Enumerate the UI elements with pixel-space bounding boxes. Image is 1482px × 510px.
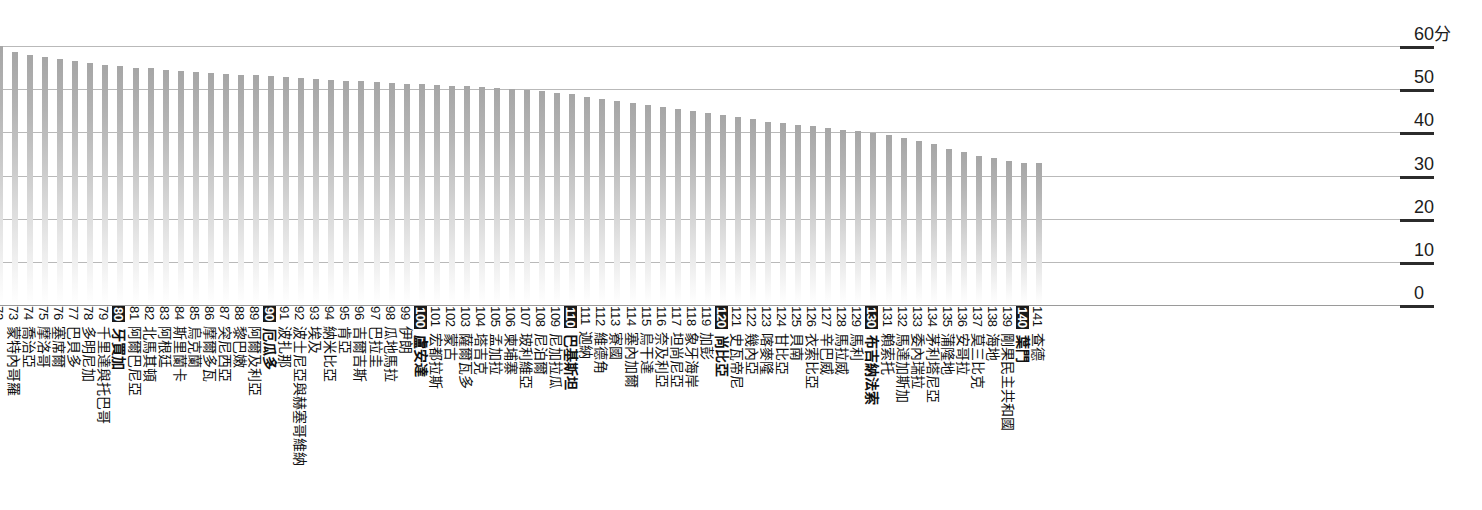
category-rank: 139 [1002, 306, 1015, 327]
category-rank: 134 [926, 306, 939, 327]
category-name: 烏克蘭 [188, 326, 202, 368]
category-name: 幾內亞 [745, 333, 759, 375]
category-rank: 102 [444, 306, 457, 327]
category-rank: 87 [218, 306, 231, 320]
bar-chart: 60分50403020100 7273蒙特內哥羅74喬治亞75摩洛哥76塞席爾7… [0, 0, 1482, 510]
category-name: 突尼西亞 [218, 326, 232, 382]
category-label: 77巴貝多 [67, 306, 81, 506]
category-name: 阿爾及利亞 [248, 326, 262, 396]
category-name: 薩爾瓦多 [459, 333, 473, 389]
bar [389, 83, 395, 305]
category-rank: 81 [128, 306, 141, 320]
category-name: 黎巴嫩 [233, 326, 247, 368]
axis-tick-40 [1400, 132, 1434, 135]
category-rank: 120 [715, 306, 728, 329]
category-name: 牙買加 [112, 328, 126, 370]
category-name: 海地 [986, 333, 1000, 361]
category-name: 宏都拉斯 [429, 333, 443, 389]
category-name: 波士尼亞與赫塞哥維納 [293, 326, 307, 466]
bar [72, 61, 78, 305]
bar [1036, 163, 1042, 305]
category-name: 蒙特內哥羅 [7, 326, 21, 396]
bar [253, 75, 259, 305]
category-label: 107玻利維亞 [519, 306, 533, 506]
category-name: 象牙海岸 [685, 332, 699, 388]
category-label: 114塞內加爾 [625, 306, 639, 506]
category-rank: 75 [38, 306, 51, 320]
category-label: 117坦尚尼亞 [670, 306, 684, 506]
bar [946, 149, 952, 305]
category-label: 136安哥拉 [956, 306, 970, 506]
category-label: 109尼加拉瓜 [549, 306, 563, 506]
category-name: 塔吉克 [474, 333, 488, 375]
bar-series [0, 0, 1400, 306]
category-name: 摩爾多瓦 [203, 326, 217, 382]
category-label: 102蒙古 [444, 306, 458, 506]
category-label: 80牙買加 [112, 306, 126, 506]
category-rank: 85 [188, 306, 201, 320]
bar [825, 128, 831, 305]
category-rank: 111 [580, 306, 593, 325]
bar [630, 103, 636, 305]
category-name: 摩洛哥 [37, 326, 51, 368]
category-label: 134茅利塔尼亞 [926, 306, 940, 506]
category-rank: 101 [429, 306, 442, 327]
category-name: 安哥拉 [956, 333, 970, 375]
category-rank: 95 [339, 306, 352, 320]
category-name: 塞內加爾 [625, 332, 639, 388]
bar [840, 130, 846, 305]
category-rank: 80 [113, 306, 126, 322]
category-label: 124甘比亞 [775, 306, 789, 506]
category-label: 92波士尼亞與赫塞哥維納 [293, 306, 307, 506]
category-name: 賴索托 [881, 333, 895, 375]
category-rank: 107 [520, 306, 533, 327]
category-label: 86摩爾多瓦 [203, 306, 217, 506]
category-rank: 127 [821, 306, 834, 327]
category-rank: 93 [309, 306, 322, 320]
category-rank: 117 [670, 306, 683, 326]
bar [690, 111, 696, 305]
category-rank: 125 [791, 306, 804, 327]
category-name: 厄瓜多 [263, 328, 277, 370]
category-label: 82北馬其頓 [143, 306, 157, 506]
category-rank: 140 [1017, 306, 1030, 329]
category-name: 烏干達 [640, 332, 654, 374]
bar [991, 158, 997, 305]
category-rank: 103 [459, 306, 472, 327]
bar [102, 65, 108, 305]
category-label: 78多明尼加 [82, 306, 96, 506]
category-label: 139剛果民主共和國 [1001, 306, 1015, 506]
category-label: 127辛巴威 [820, 306, 834, 506]
category-rank: 96 [354, 306, 367, 320]
category-label: 90厄瓜多 [263, 306, 277, 506]
category-rank: 129 [851, 306, 864, 327]
category-rank: 126 [806, 306, 819, 327]
category-rank: 109 [550, 306, 563, 327]
category-label: 140葉門 [1016, 306, 1030, 506]
category-label: 138海地 [986, 306, 1000, 506]
category-rank: 133 [911, 306, 924, 327]
category-name: 玻利維亞 [519, 333, 533, 389]
bar [313, 79, 319, 305]
category-rank: 108 [535, 306, 548, 327]
bar [223, 74, 229, 305]
bar [765, 122, 771, 305]
category-rank: 73 [8, 306, 21, 320]
category-name: 伊朗 [399, 326, 413, 354]
category-name: 奈及利亞 [655, 332, 669, 388]
category-name: 布吉納法索 [865, 335, 879, 405]
bar [524, 90, 530, 305]
axis-tick-label-60: 60分 [1414, 25, 1451, 43]
category-label: 135蒲隆地 [941, 306, 955, 506]
bar [931, 144, 937, 305]
category-name: 茅利塔尼亞 [926, 333, 940, 403]
category-label: 128馬拉威 [835, 306, 849, 506]
bar [1021, 163, 1027, 305]
category-name: 委內瑞拉 [911, 333, 925, 389]
axis-tick-60 [1400, 46, 1434, 49]
axis-tick-label-10: 10 [1414, 241, 1434, 259]
category-rank: 78 [83, 306, 96, 320]
category-name: 馬拉威 [835, 333, 849, 375]
category-name: 貝南 [790, 333, 804, 361]
bar [268, 76, 274, 305]
